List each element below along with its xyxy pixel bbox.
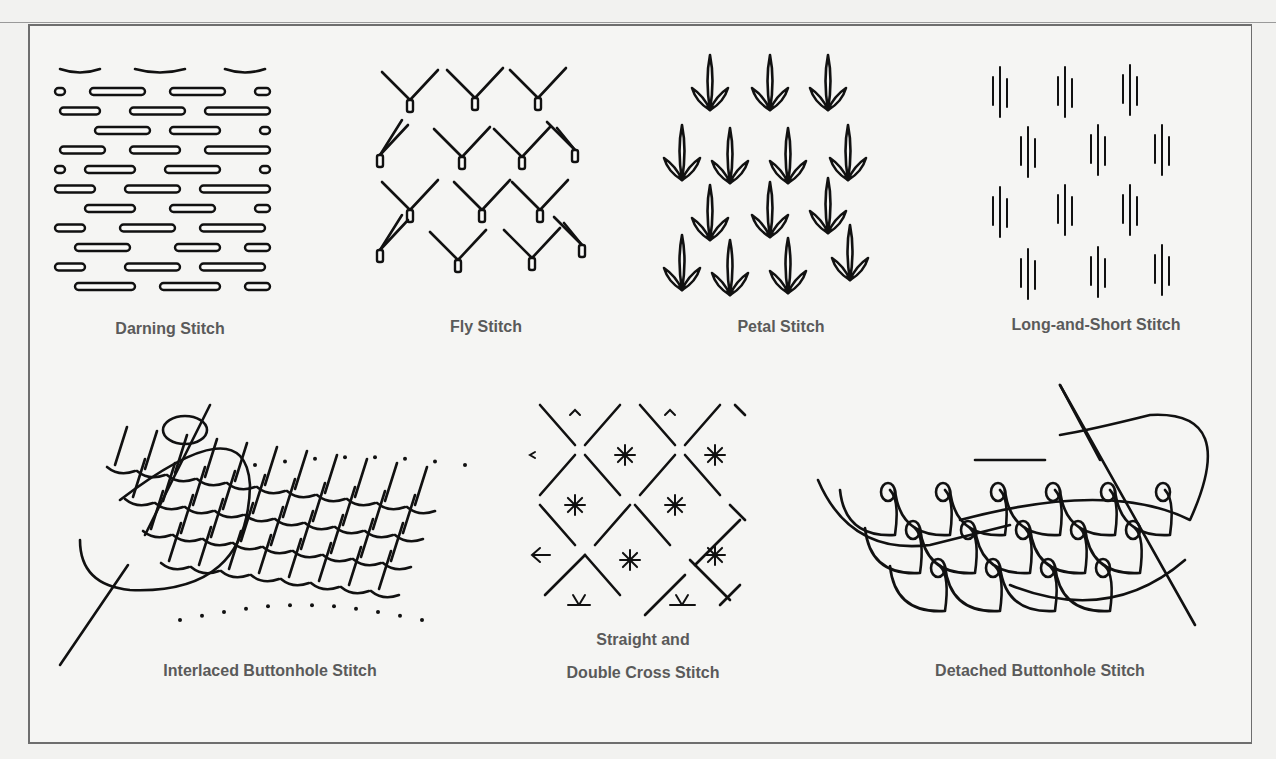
top-rule — [0, 22, 1276, 23]
panel-long-and-short-stitch — [980, 55, 1200, 285]
panel-darning-stitch — [55, 60, 275, 305]
darning-stitch-illustration — [55, 60, 275, 305]
panel-petal-stitch — [670, 65, 900, 295]
panel-detached-buttonhole-stitch — [810, 380, 1250, 660]
label-darning-stitch: Darning Stitch — [115, 317, 224, 341]
label-straight-and: Straight and — [596, 628, 689, 652]
label-long-and-short-stitch: Long-and-Short Stitch — [1012, 313, 1181, 337]
straight-double-cross-illustration — [530, 400, 760, 620]
interlaced-buttonhole-illustration — [50, 385, 480, 665]
petal-stitch-illustration — [670, 65, 900, 295]
label-double-cross-stitch: Double Cross Stitch — [567, 661, 720, 685]
detached-buttonhole-illustration — [810, 380, 1250, 660]
label-interlaced-buttonhole-stitch: Interlaced Buttonhole Stitch — [163, 659, 376, 683]
long-and-short-stitch-illustration — [980, 55, 1200, 285]
label-petal-stitch: Petal Stitch — [737, 315, 824, 339]
fly-stitch-illustration — [360, 60, 600, 280]
panel-interlaced-buttonhole-stitch — [50, 385, 480, 665]
label-detached-buttonhole-stitch: Detached Buttonhole Stitch — [935, 659, 1145, 683]
panel-straight-double-cross-stitch — [530, 400, 760, 620]
panel-fly-stitch — [360, 60, 600, 280]
label-fly-stitch: Fly Stitch — [450, 315, 522, 339]
